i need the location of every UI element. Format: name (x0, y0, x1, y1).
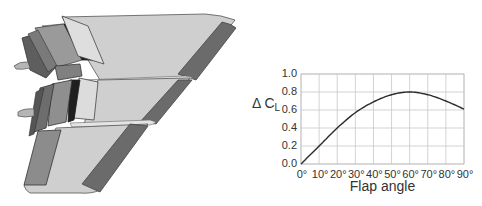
plot-frame (301, 74, 464, 164)
y-axis-label-main: Δ C (252, 95, 275, 111)
wing-flap-illustration (0, 0, 250, 206)
y-tick-label: 0.4 (267, 121, 297, 133)
y-tick-label: 0.2 (267, 139, 297, 151)
y-tick-label: 1.0 (267, 67, 297, 79)
y-axis-label-subscript: L (275, 102, 281, 113)
gridlines (301, 74, 464, 164)
inboard-wing-panel (24, 124, 148, 193)
y-axis-label: Δ CL (252, 95, 280, 113)
delta-cl-chart: 0.00.20.40.60.81.0 0°10°20°30°40°50°60°7… (240, 60, 482, 206)
x-axis-label: Flap angle (301, 178, 464, 194)
